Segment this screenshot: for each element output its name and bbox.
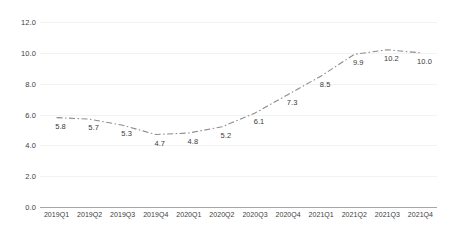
x-axis-tick-label: 2019Q4 [143,211,168,218]
y-axis-tick-label: 0.0 [0,203,36,212]
x-axis-tick-label: 2020Q4 [276,211,301,218]
data-point-label: 10.0 [417,56,432,65]
x-axis-tick-label: 2021Q4 [408,211,433,218]
x-axis-tick-label: 2019Q3 [110,211,135,218]
x-axis-tick-label: 2020Q3 [242,211,267,218]
data-point-label: 9.9 [353,58,364,67]
y-axis-tick-label: 4.0 [0,141,36,150]
data-point-label: 7.3 [287,98,298,107]
data-point-label: 8.5 [320,79,331,88]
y-axis-tick-label: 12.0 [0,18,36,27]
x-axis-tick-label: 2021Q3 [375,211,400,218]
x-axis-tick-label: 2021Q2 [342,211,367,218]
y-axis-tick-label: 10.0 [0,48,36,57]
y-axis-tick-label: 6.0 [0,110,36,119]
data-point-label: 5.8 [55,121,66,130]
data-point-label: 4.7 [154,138,165,147]
y-axis-tick-label: 8.0 [0,79,36,88]
y-axis-tick-label: 2.0 [0,172,36,181]
data-point-label: 5.3 [121,129,132,138]
data-point-label: 10.2 [384,53,399,62]
line-chart: 0.02.04.06.08.010.012.0 5.85.75.34.74.85… [0,0,453,235]
plot-area: 5.85.75.34.74.85.26.17.38.59.910.210.0 [40,22,437,207]
data-point-label: 5.2 [221,130,232,139]
x-axis-tick-label: 2021Q1 [309,211,334,218]
data-point-label: 6.1 [254,116,265,125]
x-axis-baseline [40,207,437,208]
x-axis-tick-label: 2020Q2 [209,211,234,218]
x-axis-tick-label: 2020Q1 [176,211,201,218]
y-axis-tick-labels: 0.02.04.06.08.010.012.0 [0,0,36,235]
x-axis-tick-label: 2019Q2 [77,211,102,218]
x-axis-tick-label: 2019Q1 [44,211,69,218]
data-point-label: 4.8 [188,137,199,146]
data-point-label: 5.7 [88,123,99,132]
series-polyline [57,50,421,135]
x-axis-tick-labels: 2019Q12019Q22019Q32019Q42020Q12020Q22020… [40,211,437,231]
series-line [40,22,437,207]
